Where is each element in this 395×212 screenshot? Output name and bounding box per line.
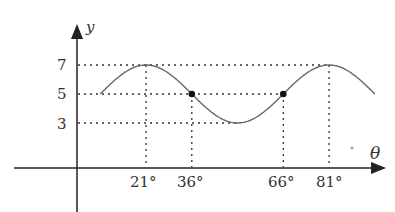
y-tick-3: 3 <box>57 117 67 132</box>
x-tick-81: 81° <box>316 175 343 190</box>
y-tick-7: 7 <box>57 58 67 73</box>
marked-point <box>280 91 287 98</box>
chart: y θ 7 5 3 21° 36° 66° 81° <box>0 0 395 212</box>
sine-curve <box>100 65 375 123</box>
marked-point <box>189 91 196 98</box>
x-tick-66: 66° <box>268 175 295 190</box>
stray-dot <box>350 146 353 149</box>
x-axis-label: θ <box>370 145 380 162</box>
x-tick-36: 36° <box>177 175 204 190</box>
y-tick-5: 5 <box>57 87 67 102</box>
y-axis-label: y <box>86 20 94 35</box>
x-tick-21: 21° <box>130 175 157 190</box>
